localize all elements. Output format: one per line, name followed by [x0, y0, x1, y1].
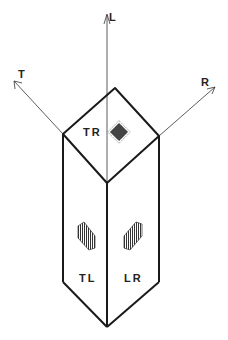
prism-axes-diagram: L T R TR TL LR [0, 0, 228, 340]
diagram-graphic [0, 0, 228, 340]
face-label-TL: TL [79, 272, 96, 284]
hatch-TL [78, 222, 95, 250]
axis-label-L: L [109, 11, 118, 23]
hatch-LR [124, 222, 142, 250]
face-label-TR: TR [83, 126, 102, 138]
hatch-TR [108, 121, 131, 144]
axis-label-R: R [201, 76, 211, 88]
axis-label-T: T [18, 68, 27, 80]
axis-T [14, 81, 63, 134]
axis-R [159, 87, 215, 136]
face-label-LR: LR [124, 272, 143, 284]
prism-outline [63, 88, 159, 327]
